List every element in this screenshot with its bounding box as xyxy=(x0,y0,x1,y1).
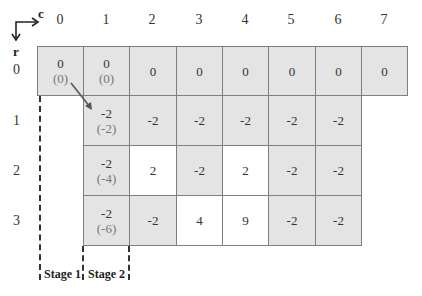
row-axis-label: r xyxy=(13,44,19,60)
stage-divider xyxy=(82,246,84,280)
row-header: 1 xyxy=(13,113,33,129)
cell-cumulative: (-2) xyxy=(97,121,117,136)
grid-cell: -2 xyxy=(268,95,316,146)
cell-cumulative: (0) xyxy=(53,71,68,86)
grid-cell: 0 xyxy=(268,46,316,96)
grid-cell: 4 xyxy=(176,195,223,246)
cell-value: -2 xyxy=(333,163,344,178)
grid-cell: -2 xyxy=(268,145,316,196)
column-header: 1 xyxy=(83,12,129,28)
grid-cell: -2 xyxy=(176,95,223,146)
cell-value: 0 xyxy=(289,64,296,79)
grid-cell: -2 (-6) xyxy=(83,195,130,246)
cell-value: 2 xyxy=(242,163,249,178)
grid-cell: 0 xyxy=(129,46,177,96)
cell-value: -2 xyxy=(194,163,205,178)
cell-value: -2 xyxy=(287,163,298,178)
diagonal-arrow-icon xyxy=(68,80,98,114)
cell-value: 0 xyxy=(150,64,157,79)
column-header: 3 xyxy=(176,12,222,28)
cell-value: -2 xyxy=(287,213,298,228)
column-header: 2 xyxy=(129,12,175,28)
row-header: 0 xyxy=(13,62,33,78)
column-header: 5 xyxy=(268,12,314,28)
cell-cumulative: (-6) xyxy=(97,221,117,236)
cell-value: -2 xyxy=(333,213,344,228)
cell-value: 0 xyxy=(335,64,342,79)
grid-cell: 0 xyxy=(315,46,362,96)
column-header: 6 xyxy=(315,12,361,28)
grid-cell: 0 xyxy=(361,46,408,96)
column-header: 0 xyxy=(37,12,83,28)
grid-cell: -2 xyxy=(176,145,223,196)
stage-label: Stage 1 xyxy=(44,267,81,282)
cell-cumulative: (0) xyxy=(99,71,114,86)
cell-value: -2 xyxy=(148,213,159,228)
grid-cell: 2 xyxy=(129,145,177,196)
cell-value: -2 xyxy=(240,113,251,128)
grid-cell: -2 xyxy=(268,195,316,246)
grid-cell: -2 xyxy=(315,95,362,146)
cell-value: 2 xyxy=(150,163,157,178)
grid-cell: 9 xyxy=(222,195,269,246)
axis-arrows-icon xyxy=(10,8,40,42)
grid-cell: -2 xyxy=(315,195,362,246)
grid-cell: -2 xyxy=(129,95,177,146)
cell-value: -2 xyxy=(101,156,112,171)
cell-value: -2 xyxy=(101,106,112,121)
cell-cumulative: (-4) xyxy=(97,171,117,186)
grid-cell: 2 xyxy=(222,145,269,196)
cell-value: -2 xyxy=(194,113,205,128)
cell-value: 0 xyxy=(242,64,249,79)
cell-value: 0 xyxy=(381,64,388,79)
column-header: 7 xyxy=(361,12,407,28)
cell-value: 0 xyxy=(103,56,110,71)
grid-cell: 0 xyxy=(176,46,223,96)
row-header: 3 xyxy=(13,213,33,229)
column-header: 4 xyxy=(222,12,268,28)
row-header: 2 xyxy=(13,163,33,179)
cell-value: 0 xyxy=(196,64,203,79)
stage-label: Stage 2 xyxy=(88,267,125,282)
grid-cell: 0 xyxy=(222,46,269,96)
cell-value: 4 xyxy=(196,213,203,228)
grid-cell: -2 xyxy=(129,195,177,246)
cell-value: -2 xyxy=(333,113,344,128)
cell-value: -2 xyxy=(101,206,112,221)
cell-value: -2 xyxy=(148,113,159,128)
stage-divider xyxy=(128,246,130,280)
grid-cell: -2 (-4) xyxy=(83,145,130,196)
grid-cell: -2 xyxy=(315,145,362,196)
cell-value: 9 xyxy=(242,213,249,228)
cell-value: 0 xyxy=(57,56,64,71)
grid-cell: -2 xyxy=(222,95,269,146)
stage-divider xyxy=(39,96,41,280)
cell-value: -2 xyxy=(287,113,298,128)
